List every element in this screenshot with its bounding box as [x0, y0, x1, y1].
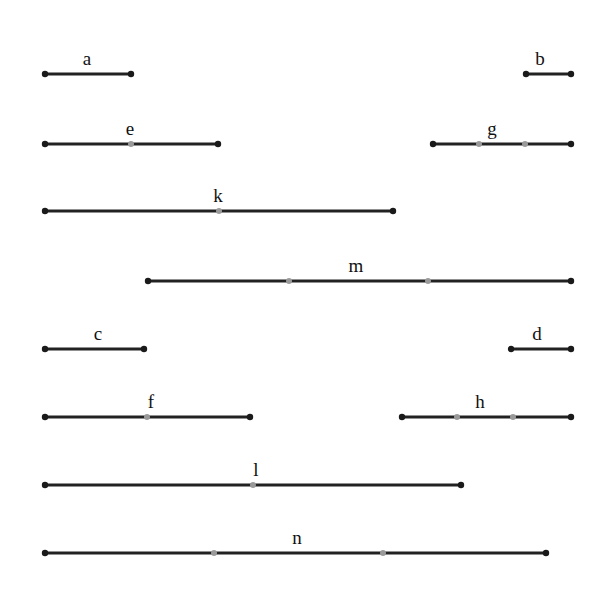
segment-e: e — [42, 118, 221, 147]
segment-m: m — [145, 255, 574, 284]
segment-label: h — [475, 391, 485, 412]
start-point-icon — [42, 414, 48, 420]
segment-label: k — [213, 185, 223, 206]
end-point-icon — [568, 414, 574, 420]
end-point-icon — [568, 278, 574, 284]
segment-d: d — [508, 323, 574, 352]
segment-label: b — [535, 48, 545, 69]
segment-a: a — [42, 48, 134, 77]
segment-label: f — [148, 391, 155, 412]
segment-h: h — [399, 391, 574, 420]
division-point-icon — [211, 550, 217, 556]
start-point-icon — [42, 550, 48, 556]
end-point-icon — [128, 71, 134, 77]
segment-b: b — [523, 48, 574, 77]
end-point-icon — [390, 208, 396, 214]
start-point-icon — [508, 346, 514, 352]
start-point-icon — [42, 71, 48, 77]
segment-label: e — [126, 118, 134, 139]
division-point-icon — [144, 414, 150, 420]
start-point-icon — [430, 141, 436, 147]
start-point-icon — [42, 208, 48, 214]
segment-label: g — [487, 118, 497, 139]
division-point-icon — [250, 482, 256, 488]
start-point-icon — [399, 414, 405, 420]
end-point-icon — [568, 346, 574, 352]
segment-label: m — [349, 255, 364, 276]
segment-label: c — [94, 323, 102, 344]
start-point-icon — [42, 482, 48, 488]
start-point-icon — [42, 141, 48, 147]
division-point-icon — [128, 141, 134, 147]
end-point-icon — [141, 346, 147, 352]
start-point-icon — [42, 346, 48, 352]
segment-k: k — [42, 185, 396, 214]
segment-n: n — [42, 527, 549, 556]
segment-c: c — [42, 323, 147, 352]
segment-g: g — [430, 118, 574, 147]
segment-diagram: abegkmcdfhln — [0, 0, 601, 590]
division-point-icon — [476, 141, 482, 147]
end-point-icon — [458, 482, 464, 488]
start-point-icon — [145, 278, 151, 284]
segment-label: a — [83, 48, 92, 69]
end-point-icon — [247, 414, 253, 420]
segment-f: f — [42, 391, 253, 420]
division-point-icon — [380, 550, 386, 556]
division-point-icon — [522, 141, 528, 147]
division-point-icon — [510, 414, 516, 420]
division-point-icon — [425, 278, 431, 284]
end-point-icon — [543, 550, 549, 556]
segment-label: d — [532, 323, 542, 344]
segment-label: n — [292, 527, 302, 548]
end-point-icon — [568, 71, 574, 77]
division-point-icon — [454, 414, 460, 420]
segment-l: l — [42, 459, 464, 488]
division-point-icon — [216, 208, 222, 214]
end-point-icon — [568, 141, 574, 147]
end-point-icon — [215, 141, 221, 147]
start-point-icon — [523, 71, 529, 77]
segment-label: l — [253, 459, 258, 480]
division-point-icon — [286, 278, 292, 284]
